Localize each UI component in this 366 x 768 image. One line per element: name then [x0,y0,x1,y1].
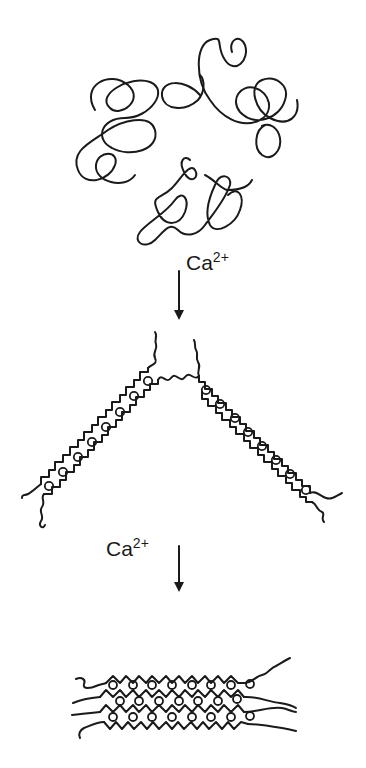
arrowhead-down-icon [174,310,184,320]
random-coil-chains [76,39,297,245]
ion-label-1: Ca2+ [186,252,229,273]
diagram-canvas [0,0,366,768]
ion-symbol: Ca [186,251,213,274]
bound-ions-aggregate [109,680,254,721]
arrowhead-down-icon [174,582,184,592]
ion-label-2: Ca2+ [106,538,149,559]
arrow-2 [174,546,184,592]
paired-chain-junctions [22,332,342,527]
arrow-1 [174,271,184,320]
ion-symbol: Ca [106,537,133,560]
ion-charge: 2+ [133,535,149,551]
ion-charge: 2+ [213,249,229,265]
bound-ions-left [45,377,152,490]
egg-box-diagram: Ca2+ Ca2+ [0,0,366,768]
egg-box-aggregate [72,658,296,738]
